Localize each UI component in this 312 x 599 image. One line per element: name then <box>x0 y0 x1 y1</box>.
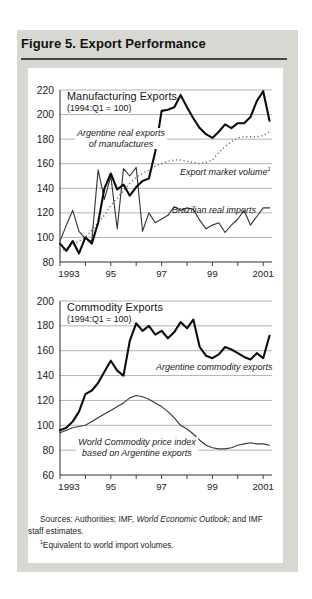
footnote-marker: 1 <box>268 166 271 172</box>
x-tick-label: 95 <box>105 268 116 279</box>
y-tick-label: 100 <box>37 232 54 243</box>
x-tick-label: 1993 <box>58 481 79 492</box>
publication-name: World Economic Outlook; <box>136 514 230 524</box>
x-tick-label: 99 <box>207 481 218 492</box>
chart2-title: Commodity Exports <box>67 302 163 313</box>
figure-title: Figure 5. Export Performance <box>21 36 206 51</box>
label-brazilian-real-imports: Brazilian real imports <box>172 205 256 216</box>
series-line-argentine-commodity-exports <box>60 320 270 431</box>
label-line2: of manufactures <box>89 139 154 149</box>
y-tick-label: 80 <box>43 445 55 456</box>
y-tick-label: 180 <box>37 320 54 331</box>
label-line2: based on Argentine exports <box>82 448 192 458</box>
label-argentine-commodity-exports: Argentine commodity exports <box>156 362 273 373</box>
footnote-line: 1Equivalent to world import volumes. <box>28 540 280 552</box>
page: Figure 5. Export Performance 80100120140… <box>0 0 312 599</box>
y-tick-label: 160 <box>37 158 54 169</box>
y-tick-label: 200 <box>37 109 54 120</box>
y-tick-label: 120 <box>37 395 54 406</box>
x-tick-label: 97 <box>156 268 167 279</box>
label-export-market-volume: Export market volume1 <box>180 167 271 178</box>
label-argentine-real-exports: Argentine real exports of manufactures <box>75 128 167 149</box>
x-tick-label: 2001 <box>253 481 274 492</box>
y-tick-label: 100 <box>37 420 54 431</box>
y-tick-label: 200 <box>37 296 54 307</box>
label-line1: World Commodity price index <box>78 437 196 447</box>
chart1-title: Manufacturing Exports <box>67 91 177 102</box>
chart2-subtitle: (1994:Q1 = 100) <box>67 314 131 325</box>
y-tick-label: 140 <box>37 183 54 194</box>
x-tick-label: 99 <box>207 268 218 279</box>
y-tick-label: 60 <box>43 470 55 481</box>
sources-line: Sources: Authorities; IMF, World Economi… <box>28 514 280 537</box>
label-world-commodity-price-index: World Commodity price index based on Arg… <box>76 437 198 458</box>
y-tick-label: 220 <box>37 85 54 96</box>
series-line-export-market-volume <box>60 132 270 252</box>
y-tick-label: 180 <box>37 134 54 145</box>
label-line1: Argentine real exports <box>77 128 165 138</box>
y-tick-label: 160 <box>37 345 54 356</box>
sources-note: Sources: Authorities; IMF, World Economi… <box>28 514 280 552</box>
chart1-subtitle: (1994:Q1 = 100) <box>67 103 131 114</box>
title-rule <box>21 58 287 60</box>
y-tick-label: 140 <box>37 370 54 381</box>
x-tick-label: 95 <box>105 481 116 492</box>
y-tick-label: 80 <box>43 257 55 268</box>
y-tick-label: 120 <box>37 207 54 218</box>
x-tick-label: 1993 <box>58 268 79 279</box>
x-tick-label: 97 <box>156 481 167 492</box>
x-tick-label: 2001 <box>253 268 274 279</box>
